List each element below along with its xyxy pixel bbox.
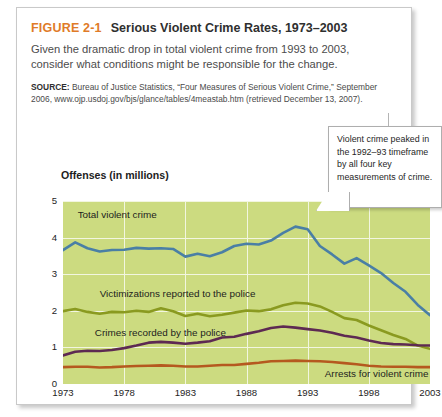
y-tick-label: 5 xyxy=(17,195,57,206)
series-label: Victimizations reported to the police xyxy=(100,288,256,299)
callout-text: Violent crime peaked in the 1992–93 time… xyxy=(337,133,437,183)
figure-title-line: FIGURE 2-1Serious Violent Crime Rates, 1… xyxy=(31,18,391,36)
y-tick-label: 3 xyxy=(17,268,57,279)
x-tick-label: 1988 xyxy=(236,387,257,398)
series-label: Total violent crime xyxy=(78,209,157,220)
x-tick-label: 1973 xyxy=(52,387,73,398)
callout-stem xyxy=(388,113,389,126)
series-label: Crimes recorded by the police xyxy=(95,327,226,338)
y-tick-label: 4 xyxy=(17,232,57,243)
x-tick-label: 1998 xyxy=(358,387,379,398)
figure-number: FIGURE 2-1 xyxy=(31,21,102,35)
x-tick-label: 1993 xyxy=(297,387,318,398)
x-tick-label: 2003 xyxy=(419,387,440,398)
x-tick-label: 1978 xyxy=(113,387,134,398)
figure-header: FIGURE 2-1Serious Violent Crime Rates, 1… xyxy=(31,18,391,106)
figure-description: Given the dramatic drop in total violent… xyxy=(31,42,361,72)
chart-plot-area: Total violent crimeVictimizations report… xyxy=(63,201,430,384)
y-axis-title: Offenses (in millions) xyxy=(61,169,169,181)
callout-annotation: Violent crime peaked in the 1992–93 time… xyxy=(328,126,442,208)
x-tick-label: 1983 xyxy=(175,387,196,398)
page-title: Serious Violent Crime Rates, 1973–2003 xyxy=(111,21,348,35)
source-text: Bureau of Justice Statistics, “Four Meas… xyxy=(31,82,377,104)
source-label: SOURCE: xyxy=(31,82,70,92)
y-tick-label: 2 xyxy=(17,305,57,316)
y-tick-label: 0 xyxy=(17,378,57,389)
y-tick-label: 1 xyxy=(17,341,57,352)
figure-source: SOURCE: Bureau of Justice Statistics, “F… xyxy=(31,82,379,105)
series-line xyxy=(63,361,430,368)
series-line xyxy=(63,227,430,316)
figure-card: FIGURE 2-1Serious Violent Crime Rates, 1… xyxy=(16,7,412,405)
series-label: Arrests for violent crime xyxy=(325,368,429,379)
